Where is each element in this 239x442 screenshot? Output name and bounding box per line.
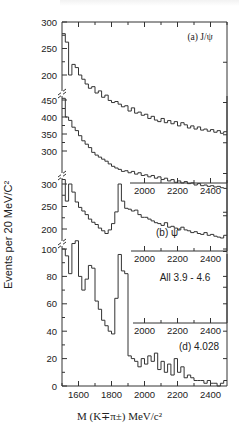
y-axis-label: Events per 20 MeV/C²	[0, 140, 18, 330]
svg-text:(b) ψ′: (b) ψ′	[156, 227, 180, 238]
svg-text:All 3.9 - 4.6: All 3.9 - 4.6	[160, 272, 211, 283]
svg-text:2200: 2200	[167, 185, 188, 196]
svg-text:300: 300	[41, 17, 57, 28]
svg-text:20: 20	[46, 353, 57, 364]
svg-text:2400: 2400	[200, 253, 221, 264]
svg-text:250: 250	[41, 201, 57, 212]
svg-text:300: 300	[41, 179, 57, 190]
svg-text:350: 350	[41, 129, 57, 140]
svg-text:2400: 2400	[200, 389, 221, 400]
svg-text:2200: 2200	[167, 325, 188, 336]
svg-text:80: 80	[46, 271, 57, 282]
svg-text:2000: 2000	[134, 253, 155, 264]
svg-text:450: 450	[41, 95, 57, 106]
svg-text:400: 400	[41, 112, 57, 123]
svg-text:2000: 2000	[134, 325, 155, 336]
svg-text:2400: 2400	[200, 185, 221, 196]
svg-text:2200: 2200	[167, 253, 188, 264]
svg-text:200: 200	[41, 224, 57, 235]
svg-text:2000: 2000	[134, 185, 155, 196]
svg-text:250: 250	[41, 43, 57, 54]
svg-text:(d) 4.028: (d) 4.028	[179, 341, 219, 352]
svg-text:2400: 2400	[200, 325, 221, 336]
svg-text:1800: 1800	[101, 389, 122, 400]
svg-text:2200: 2200	[167, 389, 188, 400]
svg-text:2000: 2000	[134, 389, 155, 400]
x-axis-label: M (K∓π±) MeV/c²	[0, 410, 239, 423]
histogram-figure: 1600180020002200240020025030020002200240…	[0, 0, 239, 442]
svg-text:40: 40	[46, 326, 57, 337]
svg-text:0: 0	[52, 381, 57, 392]
svg-text:100: 100	[41, 244, 57, 255]
svg-text:60: 60	[46, 298, 57, 309]
svg-text:200: 200	[41, 70, 57, 81]
svg-text:(a) J/ψ: (a) J/ψ	[187, 32, 212, 43]
svg-text:1600: 1600	[68, 389, 89, 400]
svg-text:300: 300	[41, 146, 57, 157]
